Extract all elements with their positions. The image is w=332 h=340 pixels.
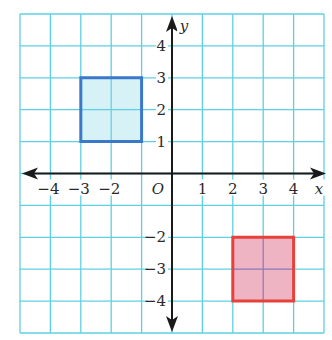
y-tick-label: 1 <box>156 133 166 151</box>
origin-label: O <box>152 180 164 198</box>
x-tick-label: 3 <box>258 180 268 198</box>
x-axis-label: x <box>315 180 324 198</box>
x-tick-label: 1 <box>198 180 208 198</box>
x-tick-label: −3 <box>68 180 90 198</box>
y-tick-label: 3 <box>156 69 166 87</box>
y-tick-label: 2 <box>156 101 166 119</box>
y-tick-label: 4 <box>156 37 166 55</box>
y-tick-label: −4 <box>144 292 166 310</box>
x-tick-label: −2 <box>98 180 120 198</box>
y-tick-label: −2 <box>144 228 166 246</box>
coordinate-plane-figure: −4−3−212344321−2−3−4Oxy <box>0 0 332 340</box>
x-tick-label: −4 <box>37 180 59 198</box>
coordinate-plane: −4−3−212344321−2−3−4Oxy <box>0 0 332 340</box>
y-tick-label: −3 <box>144 260 166 278</box>
y-axis-label: y <box>179 17 189 35</box>
x-tick-label: 2 <box>228 180 238 198</box>
x-tick-label: 4 <box>289 180 299 198</box>
